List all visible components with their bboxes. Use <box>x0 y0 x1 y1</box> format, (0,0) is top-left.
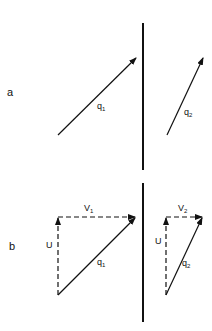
velocity-triangle-diagram: aq1q2 bV1Uq1V2Uq2 <box>0 0 212 331</box>
vector-label-q1: q1 <box>97 101 106 112</box>
panel-b: bV1Uq1V2Uq2 <box>9 203 202 295</box>
diagram-svg: aq1q2 bV1Uq1V2Uq2 <box>0 0 212 331</box>
panel_a-panel-label: a <box>7 86 14 98</box>
vector-label-q2: q2 <box>182 258 191 269</box>
panel_b-panel-label: b <box>9 240 15 252</box>
vector-q1-arrow <box>58 58 136 135</box>
panel-a: aq1q2 <box>7 58 203 135</box>
vector-q2-arrow <box>167 58 203 135</box>
vector-label-q2: q2 <box>184 107 193 118</box>
vector-label-q1: q1 <box>97 257 106 268</box>
vector-label-v2: V2 <box>178 203 188 214</box>
vector-label-u: U <box>155 236 162 246</box>
vector-q2-arrow <box>166 218 202 295</box>
vector-label-u: U <box>46 240 53 250</box>
vector-label-v1: V1 <box>84 203 94 214</box>
